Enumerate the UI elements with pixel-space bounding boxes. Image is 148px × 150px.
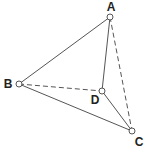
edges [19, 17, 132, 131]
vertex-a-label: A [107, 0, 116, 14]
vertex-b-point [16, 81, 22, 87]
edge-bd-hidden [19, 84, 102, 91]
vertex-b-label: B [4, 77, 13, 91]
edge-bc [19, 84, 132, 131]
edge-ac-hidden [110, 17, 132, 131]
vertex-d-point [99, 88, 105, 94]
vertices [16, 14, 135, 134]
vertex-c-point [129, 128, 135, 134]
tetrahedron-diagram: ABCD [0, 0, 148, 150]
vertex-a-point [107, 14, 113, 20]
vertex-d-label: D [91, 93, 100, 107]
edge-ab [19, 17, 110, 84]
edge-ad [102, 17, 110, 91]
vertex-c-label: C [135, 135, 144, 149]
